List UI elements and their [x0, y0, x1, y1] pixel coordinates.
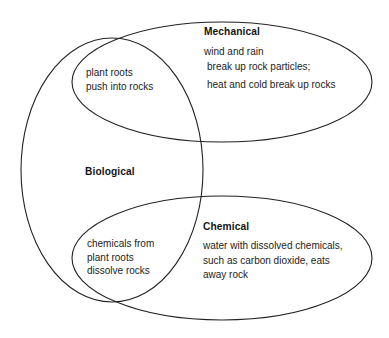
set-item-chemical-1: water with dissolved chemicals,: [203, 239, 343, 254]
set-item-mechanical-2: break up rock particles;: [204, 60, 335, 75]
set-item-chemical-3: away rock: [203, 268, 343, 283]
venn-labels: Mechanical wind and rain break up rock p…: [0, 0, 389, 338]
set-items-mechanical: wind and rain break up rock particles; h…: [204, 45, 335, 93]
intersection-bottom-item-2: plant roots: [87, 251, 154, 265]
intersection-bottom-item-1: chemicals from: [87, 237, 154, 251]
set-label-biological: Biological: [85, 165, 135, 178]
set-label-chemical-text: Chemical: [203, 220, 249, 233]
set-label-mechanical-text: Mechanical: [204, 25, 260, 38]
set-item-chemical-2: such as carbon dioxide, eats: [203, 254, 343, 269]
intersection-bottom-item-3: dissolve rocks: [87, 264, 154, 278]
set-label-biological-text: Biological: [85, 165, 135, 178]
intersection-top-item-1: plant roots: [86, 66, 153, 80]
intersection-top-item-2: push into rocks: [86, 80, 153, 94]
set-item-mechanical-1: wind and rain: [204, 45, 335, 60]
set-label-chemical: Chemical: [203, 220, 249, 233]
venn-diagram: Mechanical wind and rain break up rock p…: [0, 0, 389, 338]
set-label-mechanical: Mechanical: [204, 25, 260, 38]
intersection-biological-mechanical: plant roots push into rocks: [86, 66, 153, 93]
set-items-chemical: water with dissolved chemicals, such as …: [203, 239, 343, 283]
intersection-biological-chemical: chemicals from plant roots dissolve rock…: [87, 237, 154, 278]
set-item-mechanical-3: heat and cold break up rocks: [204, 78, 335, 93]
